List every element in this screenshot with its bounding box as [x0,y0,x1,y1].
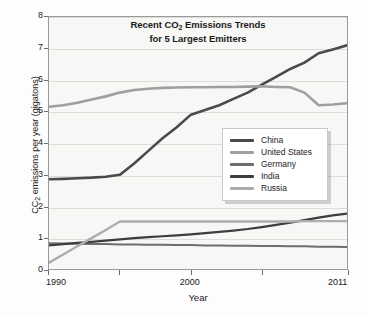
x-axis-tick-label: 2011 [328,277,347,287]
x-axis-tick-mark [348,270,349,275]
legend-swatch-icon [230,139,254,142]
chart-title-post: Emissions Trends [182,19,265,30]
series-line-united-states [49,86,347,106]
y-axis-tick-label: 0 [17,264,43,274]
legend-item-china[interactable]: China [223,134,327,146]
legend-swatch-icon [230,175,254,178]
legend-item-india[interactable]: India [223,170,327,182]
series-line-germany [49,243,347,247]
series-line-india [49,214,347,246]
y-axis-tick-label: 2 [17,201,43,211]
y-axis-tick-label: 8 [17,10,43,20]
x-axis-tick-label: 1990 [46,277,66,287]
y-axis-title-wrapper: CC2 emissions per year (gigatons) [0,30,18,230]
y-axis-tick-label: 7 [17,42,43,52]
chart-title: Recent CO2 Emissions Trends for 5 Larges… [48,19,348,45]
legend-item-united-states[interactable]: United States [223,146,327,158]
legend-label: Germany [261,159,296,169]
x-axis-tick-label: 2000 [180,277,200,287]
chart-legend: ChinaUnited StatesGermanyIndiaRussia [222,128,328,201]
legend-label: United States [261,147,312,157]
y-axis-tick-label: 5 [17,105,43,115]
chart-title-line1: Recent CO2 Emissions Trends [130,19,265,30]
y-axis-tick-label: 4 [17,137,43,147]
legend-label: Russia [261,183,287,193]
chart-container: CC2 emissions per year (gigatons) 876543… [0,0,367,316]
legend-swatch-icon [230,151,254,154]
chart-title-subscript: 2 [179,24,183,31]
legend-label: India [261,171,279,181]
legend-item-russia[interactable]: Russia [223,182,327,194]
x-axis-tick-mark [262,270,263,275]
legend-item-germany[interactable]: Germany [223,158,327,170]
y-axis-tick-label: 6 [17,74,43,84]
chart-title-pre: Recent CO [130,19,178,30]
y-axis-tick-label: 3 [17,169,43,179]
legend-label: China [261,135,283,145]
x-axis-tick-mark [119,270,120,275]
legend-swatch-icon [230,187,254,190]
legend-swatch-icon [230,163,254,166]
x-axis-tick-mark [48,270,49,275]
y-axis-tick-label: 1 [17,232,43,242]
chart-title-line2: for 5 Largest Emitters [48,33,348,46]
x-axis-title: Year [48,292,348,303]
x-axis-tick-mark [191,270,192,275]
